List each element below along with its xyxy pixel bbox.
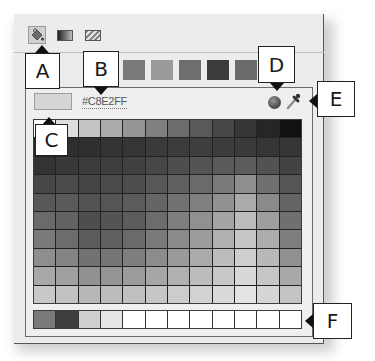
color-cell[interactable] [168,120,189,137]
recent-color-cell[interactable] [168,311,189,328]
color-cell[interactable] [280,138,301,155]
color-cell[interactable] [235,267,256,284]
color-cell[interactable] [123,230,144,247]
color-cell[interactable] [123,249,144,266]
color-cell[interactable] [213,120,234,137]
tab-gradient[interactable] [56,26,74,44]
color-cell[interactable] [146,230,167,247]
current-color-swatch[interactable] [34,93,72,110]
color-cell[interactable] [235,120,256,137]
color-cell[interactable] [213,212,234,229]
color-cell[interactable] [168,267,189,284]
color-cell[interactable] [257,175,278,192]
color-cell[interactable] [280,286,301,303]
color-cell[interactable] [190,267,211,284]
color-cell[interactable] [101,138,122,155]
color-cell[interactable] [56,230,77,247]
color-cell[interactable] [56,175,77,192]
recent-color-cell[interactable] [79,311,100,328]
color-cell[interactable] [56,249,77,266]
color-cell[interactable] [190,120,211,137]
color-cell[interactable] [79,212,100,229]
color-cell[interactable] [79,194,100,211]
color-cell[interactable] [168,230,189,247]
recent-color-cell[interactable] [213,311,234,328]
color-cell[interactable] [190,249,211,266]
color-cell[interactable] [146,249,167,266]
color-cell[interactable] [190,175,211,192]
color-cell[interactable] [56,286,77,303]
color-cell[interactable] [79,120,100,137]
color-cell[interactable] [34,212,55,229]
color-cell[interactable] [56,157,77,174]
color-cell[interactable] [190,212,211,229]
color-cell[interactable] [257,267,278,284]
color-cell[interactable] [168,194,189,211]
color-cell[interactable] [257,194,278,211]
recent-color-cell[interactable] [146,311,167,328]
color-cell[interactable] [101,230,122,247]
color-cell[interactable] [123,175,144,192]
color-cell[interactable] [146,194,167,211]
preset-swatch[interactable] [151,60,173,80]
tab-pattern[interactable] [84,26,102,44]
color-cell[interactable] [213,157,234,174]
color-cell[interactable] [79,230,100,247]
color-cell[interactable] [213,230,234,247]
color-cell[interactable] [280,267,301,284]
color-cell[interactable] [280,194,301,211]
color-cell[interactable] [101,175,122,192]
color-cell[interactable] [34,175,55,192]
color-cell[interactable] [146,267,167,284]
color-cell[interactable] [257,157,278,174]
color-cell[interactable] [280,249,301,266]
color-cell[interactable] [79,249,100,266]
color-cell[interactable] [101,120,122,137]
color-cell[interactable] [56,267,77,284]
color-sphere-icon[interactable] [268,96,281,109]
color-cell[interactable] [213,175,234,192]
color-cell[interactable] [101,267,122,284]
color-cell[interactable] [34,230,55,247]
preset-swatch[interactable] [235,60,257,80]
color-cell[interactable] [235,249,256,266]
color-cell[interactable] [56,212,77,229]
color-cell[interactable] [123,157,144,174]
color-cell[interactable] [257,138,278,155]
color-cell[interactable] [34,249,55,266]
color-cell[interactable] [34,286,55,303]
color-cell[interactable] [34,267,55,284]
color-cell[interactable] [213,249,234,266]
color-cell[interactable] [190,138,211,155]
color-cell[interactable] [146,120,167,137]
color-cell[interactable] [235,286,256,303]
color-cell[interactable] [168,175,189,192]
color-cell[interactable] [101,286,122,303]
color-cell[interactable] [280,120,301,137]
color-cell[interactable] [213,267,234,284]
color-cell[interactable] [56,194,77,211]
recent-color-cell[interactable] [56,311,77,328]
color-cell[interactable] [280,175,301,192]
color-cell[interactable] [79,175,100,192]
tab-solid-color[interactable] [28,26,46,44]
color-cell[interactable] [123,120,144,137]
color-cell[interactable] [79,267,100,284]
color-cell[interactable] [257,286,278,303]
color-cell[interactable] [235,157,256,174]
color-cell[interactable] [280,230,301,247]
preset-swatch[interactable] [179,60,201,80]
eyedropper-icon[interactable] [285,92,301,110]
color-cell[interactable] [168,249,189,266]
color-cell[interactable] [101,157,122,174]
color-cell[interactable] [79,157,100,174]
color-cell[interactable] [280,157,301,174]
preset-swatch[interactable] [123,60,145,80]
color-cell[interactable] [213,138,234,155]
color-cell[interactable] [146,138,167,155]
color-cell[interactable] [190,230,211,247]
color-cell[interactable] [168,138,189,155]
color-cell[interactable] [190,194,211,211]
recent-color-cell[interactable] [280,311,301,328]
color-cell[interactable] [34,157,55,174]
